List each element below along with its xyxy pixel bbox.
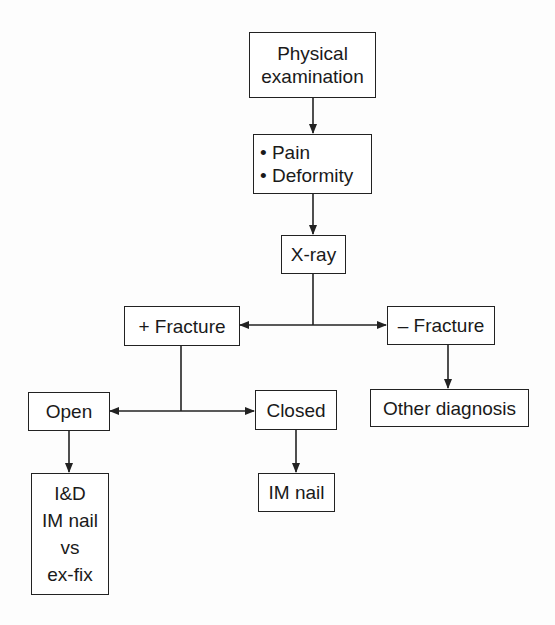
node-text: X-ray: [291, 243, 336, 266]
node-open-treatment: I&D IM nail vs ex-fix: [31, 473, 109, 595]
node-text: IM nail: [269, 481, 325, 504]
node-closed: Closed: [255, 390, 337, 430]
node-symptoms: • Pain • Deformity: [253, 134, 372, 194]
node-text: examination: [261, 65, 363, 88]
node-negative-fracture: – Fracture: [387, 306, 495, 345]
node-text: I&D: [54, 480, 86, 507]
node-text: Other diagnosis: [383, 397, 516, 420]
node-other-diagnosis: Other diagnosis: [370, 389, 529, 427]
node-text: vs: [61, 534, 80, 561]
node-text: Physical: [277, 42, 348, 65]
node-closed-treatment: IM nail: [258, 473, 335, 512]
node-text-deformity: • Deformity: [260, 164, 353, 187]
node-positive-fracture: + Fracture: [124, 306, 240, 346]
node-xray: X-ray: [281, 235, 346, 274]
flowchart-canvas: Physical examination • Pain • Deformity …: [0, 0, 555, 625]
node-physical-examination: Physical examination: [249, 32, 376, 98]
node-text: IM nail: [42, 507, 98, 534]
node-text: Open: [46, 400, 92, 423]
node-text: + Fracture: [138, 315, 225, 338]
node-open: Open: [28, 392, 110, 431]
node-text: ex-fix: [47, 561, 92, 588]
node-text: Closed: [266, 399, 325, 422]
node-text-pain: • Pain: [260, 141, 310, 164]
node-text: – Fracture: [398, 314, 485, 337]
